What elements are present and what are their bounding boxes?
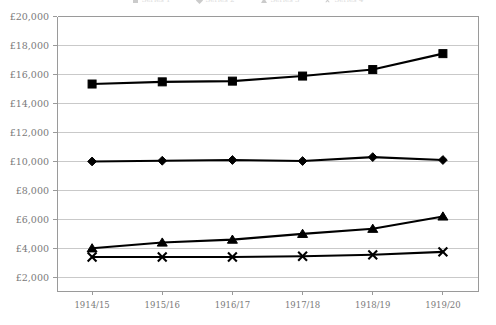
data-point-square	[228, 77, 236, 85]
y-axis-tick-label: £12,000	[10, 127, 49, 138]
y-axis-tick-label: £4,000	[16, 243, 49, 254]
x-axis-tick-label: 1919/20	[425, 300, 460, 310]
y-axis-tick-label: £2,000	[16, 272, 49, 283]
series-2-diamond	[88, 153, 448, 166]
data-point-diamond	[439, 156, 448, 165]
series-line	[92, 216, 443, 248]
data-point-square	[299, 72, 307, 80]
series-1-square	[88, 50, 447, 88]
y-axis-tick-label: £20,000	[10, 11, 49, 22]
data-point-diamond	[228, 156, 237, 165]
line-chart-plot: £2,000£4,000£6,000£8,000£10,000£12,000£1…	[0, 0, 496, 325]
x-axis-tick-label: 1914/15	[74, 300, 109, 310]
data-point-square	[369, 66, 377, 74]
series-line	[92, 157, 443, 161]
x-axis-tick-label: 1917/18	[285, 300, 320, 310]
data-point-square	[158, 78, 166, 86]
series-line	[92, 54, 443, 84]
y-axis-tick-label: £18,000	[10, 40, 49, 51]
series-3-triangle	[87, 212, 448, 252]
y-axis-tick-label: £14,000	[10, 98, 49, 109]
data-point-square	[88, 80, 96, 88]
y-axis-tick-label: £10,000	[10, 156, 49, 167]
chart-container: Series 1Series 2Series 3Series 4 £2,000£…	[0, 0, 496, 325]
y-axis-tick-label: £16,000	[10, 69, 49, 80]
data-point-diamond	[298, 157, 307, 166]
series-line	[92, 252, 443, 257]
y-axis-tick-label: £6,000	[16, 214, 49, 225]
tickmarks-group	[53, 17, 443, 296]
x-axis-tick-labels: 1914/151915/161916/171917/181918/191919/…	[74, 300, 460, 310]
data-series-layer	[87, 50, 448, 262]
x-axis-tick-label: 1916/17	[215, 300, 250, 310]
data-point-diamond	[88, 157, 97, 166]
data-point-diamond	[368, 153, 377, 162]
y-axis-tick-labels: £2,000£4,000£6,000£8,000£10,000£12,000£1…	[10, 11, 49, 283]
y-axis-tick-label: £8,000	[16, 185, 49, 196]
series-4-x	[88, 248, 448, 262]
x-axis-tick-label: 1915/16	[145, 300, 180, 310]
data-point-triangle	[438, 212, 448, 220]
axes-group	[58, 17, 479, 292]
data-point-square	[439, 50, 447, 58]
data-point-diamond	[158, 156, 167, 165]
x-axis-tick-label: 1918/19	[355, 300, 390, 310]
